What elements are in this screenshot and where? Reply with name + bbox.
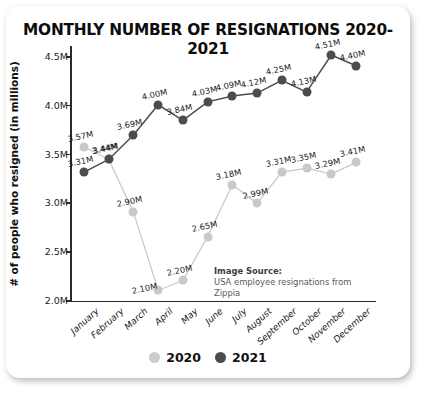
source-heading: Image Source: <box>214 266 379 277</box>
y-tick-label: 3.0M <box>45 197 68 208</box>
data-point[interactable] <box>352 158 361 167</box>
data-point[interactable] <box>203 232 212 241</box>
data-point[interactable] <box>154 100 163 109</box>
legend-label-2021: 2021 <box>232 350 267 365</box>
data-point[interactable] <box>327 51 336 60</box>
chart-legend: 2020 2021 <box>6 350 410 365</box>
x-tick-label: April <box>153 306 175 327</box>
data-point[interactable] <box>228 92 237 101</box>
data-point[interactable] <box>80 168 89 177</box>
data-point[interactable] <box>104 155 113 164</box>
legend-label-2020: 2020 <box>166 350 201 365</box>
data-point[interactable] <box>178 116 187 125</box>
y-tick-label: 4.5M <box>45 51 68 62</box>
data-point[interactable] <box>253 89 262 98</box>
data-point[interactable] <box>228 180 237 189</box>
data-point[interactable] <box>327 170 336 179</box>
x-tick-label: May <box>179 306 200 326</box>
legend-marker-2020-icon <box>149 352 160 363</box>
plot-area: # of people who resigned (in millions) 2… <box>70 46 376 302</box>
data-point[interactable] <box>203 97 212 106</box>
x-axis-labels: JanuaryFebruaryMarchAprilMayJuneJulyAugu… <box>70 304 376 356</box>
legend-marker-2021-icon <box>215 352 226 363</box>
source-note: Image Source: USA employee resignations … <box>214 266 379 299</box>
data-point[interactable] <box>352 61 361 70</box>
source-text: USA employee resignations from Zippia <box>214 277 379 299</box>
y-tick-label: 3.5M <box>45 148 68 159</box>
data-point[interactable] <box>253 199 262 208</box>
x-tick-label: July <box>230 306 249 324</box>
data-point[interactable] <box>302 164 311 173</box>
data-point[interactable] <box>277 168 286 177</box>
x-tick-label: June <box>203 306 224 327</box>
y-tick-label: 2.0M <box>45 295 68 306</box>
data-point[interactable] <box>80 142 89 151</box>
data-point[interactable] <box>178 276 187 285</box>
y-tick-label: 4.0M <box>45 99 68 110</box>
x-tick-label: March <box>123 306 150 332</box>
y-tick-label: 2.5M <box>45 246 68 257</box>
data-point[interactable] <box>129 208 138 217</box>
data-point[interactable] <box>302 88 311 97</box>
legend-item-2020[interactable]: 2020 <box>149 350 201 365</box>
legend-item-2021[interactable]: 2021 <box>215 350 267 365</box>
data-point[interactable] <box>277 76 286 85</box>
y-axis-title: # of people who resigned (in millions) <box>8 61 20 287</box>
data-point[interactable] <box>129 131 138 140</box>
chart-card: MONTHLY NUMBER OF RESIGNATIONS 2020-2021… <box>6 6 410 378</box>
